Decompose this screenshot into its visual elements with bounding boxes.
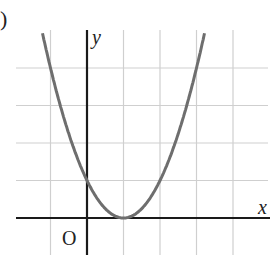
origin-label: O bbox=[62, 227, 76, 249]
grid-lines bbox=[16, 30, 268, 255]
panel-label: ) bbox=[0, 6, 7, 31]
x-axis-label: x bbox=[257, 196, 267, 218]
parabola-graph: ) y x O bbox=[0, 0, 275, 263]
y-axis-label: y bbox=[90, 26, 101, 49]
